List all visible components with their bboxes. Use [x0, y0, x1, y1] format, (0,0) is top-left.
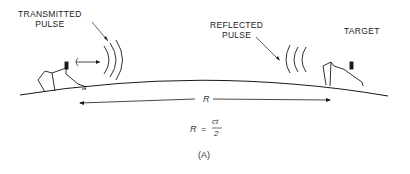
reflected-pulse-waves-icon	[286, 45, 306, 73]
figure-caption: (A)	[198, 150, 210, 160]
reflected-pulse-label: REFLECTED PULSE	[210, 20, 263, 40]
equation-numerator: ct	[212, 117, 218, 126]
transmitted-label-line1: TRANSMITTED	[18, 9, 82, 19]
target-ship-icon	[323, 62, 363, 86]
transmitted-label-line2: PULSE	[18, 19, 82, 29]
reflected-pointer	[256, 37, 279, 60]
equation-equals: =	[201, 124, 206, 134]
equation-lhs: R	[190, 124, 197, 134]
range-label: R	[200, 94, 213, 104]
target-label: TARGET	[344, 26, 380, 36]
transmitted-pulse-label: TRANSMITTED PULSE	[18, 9, 82, 29]
reflected-label-line2: PULSE	[210, 30, 263, 40]
reflected-label-line1: REFLECTED	[210, 20, 263, 30]
transmitted-pulse-waves-icon	[104, 40, 123, 80]
equation-denominator: 2	[214, 129, 218, 138]
